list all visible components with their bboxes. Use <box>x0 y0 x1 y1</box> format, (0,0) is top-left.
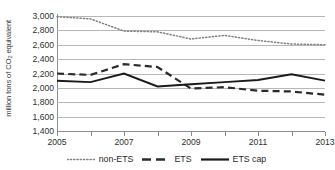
y-axis-tick-label: 2,800 <box>32 25 54 35</box>
x-axis-tick <box>124 132 125 136</box>
x-axis-tick <box>225 132 226 136</box>
series-layer <box>57 16 325 131</box>
legend-item-non-ets[interactable]: non-ETS <box>67 154 134 164</box>
legend-swatch-dotted <box>67 156 95 163</box>
legend-label: ETS <box>174 154 191 164</box>
x-axis-tick <box>292 132 293 136</box>
x-axis-tick <box>325 132 326 136</box>
y-axis-tick-label: 2,000 <box>32 83 54 93</box>
x-axis-tick-labels: 20052007200920112013 <box>57 137 325 149</box>
y-axis-tick-label: 1,400 <box>32 126 54 136</box>
y-axis-title-pre: million tons of CO <box>4 58 13 116</box>
y-axis-tick-labels: 1,4001,6001,8002,0002,2002,4002,6002,800… <box>16 11 56 136</box>
y-axis-tick-label: 2,600 <box>32 40 54 50</box>
x-axis-tick <box>158 132 159 136</box>
y-axis-tick-label: 3,000 <box>32 11 54 21</box>
legend-item-ets-cap[interactable]: ETS cap <box>201 154 267 164</box>
legend-label: ETS cap <box>233 154 267 164</box>
series-line-non-ets <box>57 17 325 45</box>
y-axis-title-post: equivalent <box>4 20 13 56</box>
y-axis-tick-label: 2,400 <box>32 54 54 64</box>
y-axis-tick-label: 2,200 <box>32 69 54 79</box>
x-axis-tick-label: 2009 <box>181 137 200 148</box>
legend-item-ets[interactable]: ETS <box>142 154 191 164</box>
y-axis-title-text: million tons of CO2 equivalent <box>5 20 14 117</box>
y-axis-tick-label: 1,600 <box>32 112 54 122</box>
x-axis-tick-label: 2013 <box>315 137 334 148</box>
series-line-ets-cap <box>57 74 325 87</box>
chart-legend: non-ETSETSETS cap <box>0 151 333 167</box>
legend-swatch-dashed <box>142 156 170 163</box>
x-axis-ticks <box>57 132 325 136</box>
legend-swatch-solid <box>201 156 229 163</box>
x-axis-tick-label: 2007 <box>114 137 133 148</box>
x-axis-tick-label: 2005 <box>47 137 66 148</box>
plot-area <box>57 16 325 131</box>
x-axis-tick <box>258 132 259 136</box>
x-axis-tick-label: 2011 <box>249 137 267 148</box>
legend-label: non-ETS <box>99 154 134 164</box>
x-axis-tick <box>91 132 92 136</box>
y-axis-tick-label: 1,800 <box>32 97 54 107</box>
x-axis-tick <box>191 132 192 136</box>
x-axis-tick <box>57 132 58 136</box>
